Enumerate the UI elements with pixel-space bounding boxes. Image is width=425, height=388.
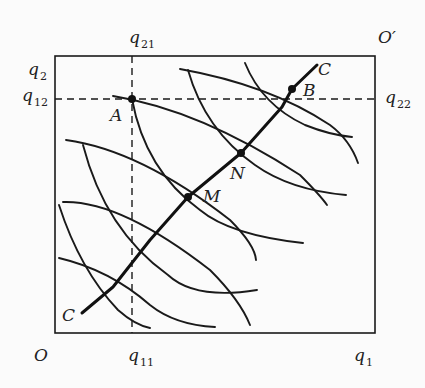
q1-base: q [354,345,365,365]
q2-sub: 2 [40,70,47,83]
q2-base: q [28,59,39,79]
q21-base: q [129,27,140,47]
point-n-label: N [229,163,246,183]
q1-sub: 1 [366,356,373,369]
edgeworth-box-diagram: A M N B C C O O′ q21 q2 q12 q22 q11 q1 [0,0,425,388]
q11-label: q11 [128,345,154,369]
point-b-label: B [302,80,316,100]
q22-base: q [385,87,396,107]
indifference-curve-1c [66,140,256,260]
point-a-label: A [108,105,122,125]
indifference-curve-1e [180,69,358,163]
q12-base: q [22,85,33,105]
q11-sub: 11 [140,356,154,369]
point-m-label: M [202,186,221,206]
q21-label: q21 [129,27,155,51]
q22-sub: 22 [397,98,411,111]
point-n-marker [237,149,245,157]
q22-label: q22 [385,87,411,111]
q11-base: q [128,345,139,365]
q12-label: q12 [22,85,48,109]
point-b-marker [288,85,296,93]
contract-curve-end-label: C [318,59,331,79]
point-m-marker [184,193,192,201]
q1-label: q1 [354,345,373,369]
contract-curve-start-label: C [62,305,75,325]
indifference-curve-2a [59,258,215,327]
point-a-marker [128,95,136,103]
q12-sub: 12 [34,96,48,109]
origin-o-label: O [34,345,48,365]
q2-label: q2 [28,59,47,83]
q21-sub: 21 [141,38,155,51]
diagram-svg: A M N B C C O O′ q21 q2 q12 q22 q11 q1 [0,0,425,388]
origin-o-prime-label: O′ [378,27,396,47]
indifference-curve-2e [245,63,352,137]
